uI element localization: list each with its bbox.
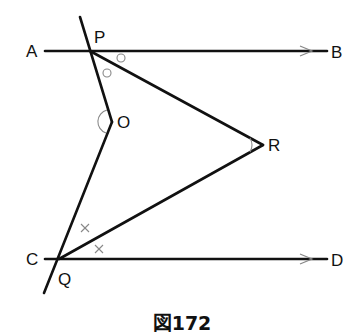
angle-mark-cross	[81, 224, 89, 232]
angle-mark-circle	[117, 54, 125, 62]
line-pr	[90, 51, 263, 145]
figure-caption: 図172	[153, 312, 212, 334]
label-r: R	[268, 136, 280, 155]
label-o: O	[117, 113, 130, 132]
label-c: C	[26, 250, 38, 269]
geometry-diagram: A B C D P Q O R 図172	[0, 0, 364, 336]
label-q: Q	[58, 270, 71, 289]
line-qr	[59, 145, 263, 259]
line-oq	[44, 122, 112, 293]
label-p: P	[94, 28, 105, 47]
label-a: A	[26, 42, 38, 61]
angle-mark-circle	[103, 69, 111, 77]
line-cd	[45, 254, 327, 264]
angle-mark-cross	[95, 245, 103, 253]
angle-arc-o	[98, 110, 107, 133]
angle-arc-r	[250, 138, 252, 152]
label-d: D	[331, 251, 343, 270]
label-b: B	[331, 43, 342, 62]
line-ab	[45, 46, 327, 56]
